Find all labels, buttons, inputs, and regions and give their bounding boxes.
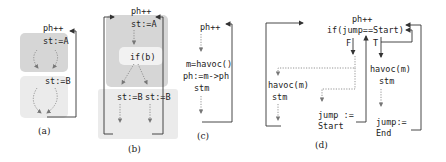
panel-d: ph++ if(jump==Start) F T havoc(m) stm ju…: [266, 14, 421, 150]
ph-label-b: ph++: [131, 6, 151, 16]
right-havoc-label: havoc(m): [370, 64, 411, 74]
havoc-label-c: m=havoc(): [186, 59, 232, 69]
false-label: F: [346, 38, 351, 48]
caption-c: (c): [197, 131, 209, 141]
ph-label-d: ph++: [352, 14, 372, 24]
st-b2-label: st:=B: [145, 92, 171, 102]
panel-c: ph++ m=havoc() ph:=m->ph stm (c): [183, 22, 232, 141]
right-stm-label: stm: [379, 76, 394, 86]
loop-arrow-d-right: [406, 25, 421, 130]
loop-arrow-d-left: [266, 23, 303, 126]
left-havoc-label: havoc(m): [268, 80, 309, 90]
st-a-label: st:=A: [43, 36, 69, 46]
caption-d: (d): [315, 140, 328, 150]
caption-b: (b): [128, 144, 141, 154]
loop-arrow-d-middle: [356, 36, 366, 122]
diagram-canvas: ph++ st:=A st:=B (a) ph++ st:=A if(b) st…: [0, 0, 446, 162]
jump-start-line2: Start: [318, 121, 344, 131]
ph-label-a: ph++: [43, 23, 63, 33]
stm-label-c: stm: [194, 83, 209, 93]
jump-end-line1: jump:=: [376, 117, 407, 127]
left-stm-label: stm: [272, 92, 287, 102]
caption-a: (a): [38, 126, 50, 136]
st-a-label-b: st:=A: [131, 19, 157, 29]
if-b-label: if(b): [130, 52, 156, 62]
jump-end-line2: End: [376, 128, 391, 138]
st-b1-label: st:=B: [117, 92, 143, 102]
ph-label-c: ph++: [200, 22, 220, 32]
st-b-label: st:=B: [45, 76, 71, 86]
true-label: T: [373, 38, 378, 48]
if-jump-label: if(jump==Start): [327, 25, 404, 35]
panel-b: ph++ st:=A if(b) st:=B st:=B (b): [98, 6, 178, 154]
jump-start-line1: jump :=: [318, 110, 354, 120]
panel-a: ph++ st:=A st:=B (a): [20, 23, 76, 136]
assign-label-c: ph:=m->ph: [183, 71, 229, 81]
